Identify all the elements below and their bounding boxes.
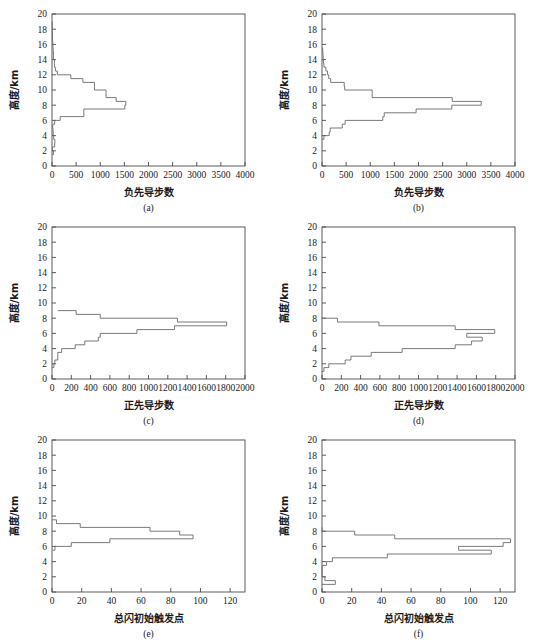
y-tick-label: 8 bbox=[312, 101, 317, 111]
y-tick-label: 18 bbox=[38, 25, 48, 35]
y-tick-label: 20 bbox=[38, 222, 48, 232]
x-tick-label: 2500 bbox=[433, 170, 452, 180]
y-axis-title: 高度/km bbox=[8, 283, 20, 324]
x-tick-label: 0 bbox=[320, 596, 325, 606]
y-tick-label: 10 bbox=[308, 298, 318, 308]
panel-d: 0200400600800100012001400160018002000024… bbox=[270, 213, 540, 426]
x-tick-label: 2500 bbox=[163, 170, 182, 180]
x-tick-label: 600 bbox=[103, 383, 118, 393]
panel-letter: (e) bbox=[143, 629, 154, 640]
x-tick-label: 500 bbox=[69, 170, 84, 180]
x-tick-label: 40 bbox=[377, 596, 387, 606]
x-tick-label: 40 bbox=[107, 596, 117, 606]
histogram-step-outline bbox=[322, 318, 495, 371]
x-axis-title: 总闪初始触发点 bbox=[384, 612, 454, 624]
y-tick-label: 0 bbox=[42, 587, 47, 597]
x-tick-label: 1500 bbox=[385, 170, 404, 180]
y-axis-title: 高度/km bbox=[278, 496, 290, 537]
x-tick-label: 400 bbox=[353, 383, 368, 393]
y-tick-label: 16 bbox=[38, 466, 48, 476]
y-tick-label: 8 bbox=[42, 314, 47, 324]
panel-letter: (d) bbox=[413, 416, 424, 426]
x-tick-label: 200 bbox=[64, 383, 79, 393]
y-tick-label: 0 bbox=[42, 374, 47, 384]
x-tick-label: 0 bbox=[320, 170, 325, 180]
x-tick-label: 3000 bbox=[187, 170, 206, 180]
y-tick-label: 2 bbox=[42, 572, 47, 582]
x-tick-label: 100 bbox=[463, 596, 478, 606]
y-tick-label: 20 bbox=[308, 222, 318, 232]
y-tick-label: 14 bbox=[38, 55, 48, 65]
y-tick-label: 12 bbox=[308, 496, 318, 506]
panel-c: 0200400600800100012001400160018002000024… bbox=[0, 213, 270, 426]
x-tick-label: 1200 bbox=[158, 383, 177, 393]
panel-letter: (a) bbox=[143, 203, 154, 213]
y-tick-label: 4 bbox=[312, 557, 317, 567]
figure-root: 0500100015002000250030003500400002468101… bbox=[0, 0, 540, 641]
x-tick-label: 200 bbox=[334, 383, 349, 393]
y-tick-label: 12 bbox=[38, 283, 48, 293]
y-tick-label: 0 bbox=[42, 161, 47, 171]
panel-letter: (f) bbox=[414, 629, 424, 640]
x-tick-label: 600 bbox=[373, 383, 388, 393]
x-tick-label: 1000 bbox=[139, 383, 158, 393]
x-tick-label: 1500 bbox=[115, 170, 134, 180]
y-tick-label: 10 bbox=[38, 511, 48, 521]
x-tick-label: 60 bbox=[136, 596, 146, 606]
histogram-step-outline bbox=[322, 48, 481, 139]
y-tick-label: 12 bbox=[308, 70, 318, 80]
histogram-step-outline bbox=[52, 520, 193, 550]
x-tick-label: 800 bbox=[122, 383, 137, 393]
x-tick-label: 2000 bbox=[236, 383, 255, 393]
x-tick-label: 20 bbox=[347, 596, 357, 606]
x-tick-label: 3500 bbox=[481, 170, 500, 180]
x-axis-title: 负先导步数 bbox=[394, 186, 445, 198]
panel-b: 0500100015002000250030003500400002468101… bbox=[270, 0, 540, 213]
panel-f: 02040608010012002468101214161820高度/km总闪初… bbox=[270, 426, 540, 639]
panel-e-plot: 02040608010012002468101214161820高度/km总闪初… bbox=[0, 426, 270, 641]
x-tick-label: 1600 bbox=[197, 383, 216, 393]
x-tick-label: 80 bbox=[436, 596, 446, 606]
y-tick-label: 18 bbox=[308, 451, 318, 461]
y-tick-label: 14 bbox=[38, 481, 48, 491]
x-tick-label: 0 bbox=[50, 383, 55, 393]
y-tick-label: 12 bbox=[38, 496, 48, 506]
y-tick-label: 18 bbox=[38, 451, 48, 461]
y-tick-label: 2 bbox=[42, 146, 47, 156]
panel-a-plot: 0500100015002000250030003500400002468101… bbox=[0, 0, 270, 213]
y-tick-label: 16 bbox=[38, 253, 48, 263]
y-axis-title: 高度/km bbox=[278, 283, 290, 324]
x-tick-label: 1000 bbox=[361, 170, 380, 180]
x-tick-label: 0 bbox=[320, 383, 325, 393]
x-tick-label: 1000 bbox=[409, 383, 428, 393]
y-tick-label: 10 bbox=[38, 85, 48, 95]
y-tick-label: 0 bbox=[312, 161, 317, 171]
panel-letter: (b) bbox=[413, 203, 424, 213]
x-tick-label: 0 bbox=[50, 596, 55, 606]
x-tick-label: 1000 bbox=[91, 170, 110, 180]
panel-c-plot: 0200400600800100012001400160018002000024… bbox=[0, 213, 270, 426]
panel-f-plot: 02040608010012002468101214161820高度/km总闪初… bbox=[270, 426, 540, 641]
x-tick-label: 1600 bbox=[467, 383, 486, 393]
y-tick-label: 8 bbox=[312, 527, 317, 537]
y-tick-label: 10 bbox=[38, 298, 48, 308]
x-tick-label: 1200 bbox=[428, 383, 447, 393]
y-tick-label: 6 bbox=[312, 542, 317, 552]
y-axis-title: 高度/km bbox=[278, 70, 290, 111]
y-tick-label: 8 bbox=[42, 101, 47, 111]
y-tick-label: 4 bbox=[312, 131, 317, 141]
x-tick-label: 400 bbox=[83, 383, 98, 393]
x-tick-label: 1800 bbox=[216, 383, 235, 393]
y-tick-label: 12 bbox=[308, 283, 318, 293]
y-tick-label: 20 bbox=[308, 9, 318, 19]
x-tick-label: 2000 bbox=[409, 170, 428, 180]
y-tick-label: 16 bbox=[308, 40, 318, 50]
x-tick-label: 0 bbox=[50, 170, 55, 180]
panel-a: 0500100015002000250030003500400002468101… bbox=[0, 0, 270, 213]
x-axis-title: 总闪初始触发点 bbox=[114, 612, 184, 624]
y-tick-label: 14 bbox=[38, 268, 48, 278]
y-tick-label: 20 bbox=[38, 435, 48, 445]
x-tick-label: 500 bbox=[339, 170, 354, 180]
y-axis-title: 高度/km bbox=[8, 70, 20, 111]
histogram-step-outline bbox=[52, 311, 227, 368]
